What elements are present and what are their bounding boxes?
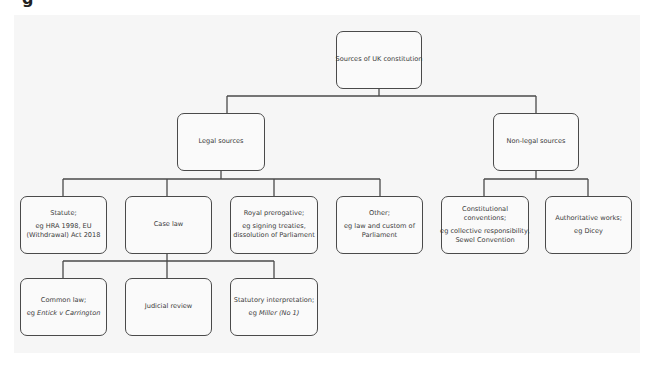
node-example: eg Miller (No 1)	[249, 309, 300, 319]
node-label: Sources of UK constitution	[336, 55, 423, 65]
node-example: eg law and custom of	[344, 222, 415, 232]
node-statute: Statute; eg HRA 1998, EU (Withdrawal) Ac…	[20, 196, 107, 254]
node-label: Legal sources	[198, 137, 243, 147]
node-heading: Constitutional	[462, 205, 508, 215]
node-label: Judicial review	[145, 302, 192, 312]
node-example-cont: (Withdrawal) Act 2018	[27, 231, 101, 241]
node-legal-sources: Legal sources	[177, 113, 265, 171]
example-prefix: eg	[27, 309, 37, 317]
node-label: Case law	[154, 220, 184, 230]
node-other: Other; eg law and custom of Parliament	[336, 196, 423, 254]
node-constitutional-conventions: Constitutional conventions; eg collectiv…	[441, 196, 529, 254]
example-prefix: eg	[249, 309, 259, 317]
node-non-legal-sources: Non-legal sources	[493, 113, 579, 171]
node-example: eg HRA 1998, EU	[35, 222, 91, 232]
node-judicial-review: Judicial review	[125, 278, 212, 336]
node-heading: Statute;	[50, 209, 76, 219]
node-example-cont: Parliament	[362, 231, 397, 241]
node-heading: Common law;	[41, 296, 86, 306]
node-example: eg Entick v Carrington	[27, 309, 101, 319]
node-example: eg signing treaties,	[242, 222, 306, 232]
node-heading: Other;	[369, 209, 390, 219]
node-heading: Statutory interpretation;	[234, 296, 315, 306]
node-example: eg Dicey	[574, 227, 603, 237]
node-authoritative-works: Authoritative works; eg Dicey	[545, 196, 632, 254]
node-example: eg collective responsibility,	[440, 227, 530, 237]
node-heading: Authoritative works;	[555, 214, 622, 224]
node-heading: Royal prerogative;	[244, 209, 304, 219]
node-royal-prerogative: Royal prerogative; eg signing treaties, …	[230, 196, 318, 254]
node-label: Non-legal sources	[507, 137, 566, 147]
node-heading-cont: conventions;	[464, 214, 506, 224]
case-name: Entick v Carrington	[37, 309, 100, 317]
node-example-cont: dissolution of Parliament	[233, 231, 315, 241]
node-example-cont: Sewel Convention	[455, 236, 514, 246]
node-statutory-interpretation: Statutory interpretation; eg Miller (No …	[230, 278, 318, 336]
node-common-law: Common law; eg Entick v Carrington	[20, 278, 107, 336]
node-sources-of-uk-constitution: Sources of UK constitution	[336, 31, 422, 89]
case-name: Miller (No 1)	[259, 309, 299, 317]
node-case-law: Case law	[125, 196, 212, 254]
